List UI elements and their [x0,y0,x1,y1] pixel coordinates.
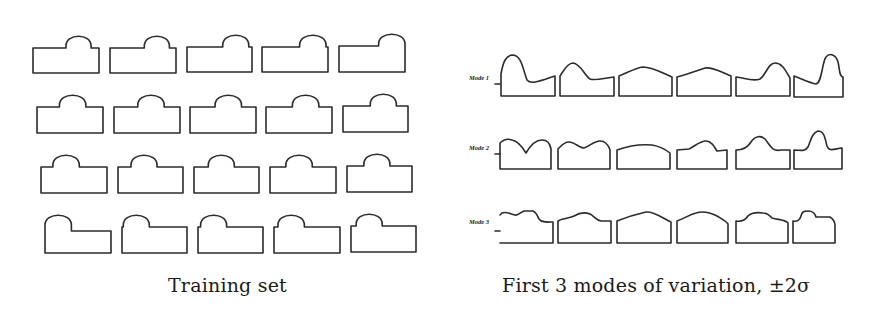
mode-shape [500,211,553,243]
mode-shape [500,139,551,169]
training-shape [41,155,107,193]
mode-shape [736,63,790,96]
training-shape [343,94,408,132]
training-shape [262,35,328,72]
mode-1-label: Mode 1 [469,74,489,81]
shape-canvas [0,0,885,314]
mode-shape [677,68,731,96]
training-shape [114,95,180,133]
training-shape [270,155,336,193]
training-shape [33,36,99,73]
modes-caption: First 3 modes of variation, ±2σ [502,274,810,296]
mode-shape [677,141,727,169]
mode-shape [736,213,788,243]
training-shape [339,34,405,72]
training-shape [274,215,340,253]
training-shape [45,215,111,253]
training-shape [266,95,332,133]
mode-shape [617,212,671,243]
mode-shape [558,141,610,169]
training-shape [187,35,252,72]
mode-shape [736,137,790,169]
figure: Training set First 3 modes of variation,… [0,0,885,314]
mode-shape [560,63,614,96]
training-shape [347,154,412,192]
mode-shape [619,67,672,96]
training-shape [122,215,187,253]
training-shape [198,215,263,253]
training-shape [194,155,259,193]
mode-3-label: Mode 3 [469,218,489,225]
training-shape [110,36,176,73]
mode-shape [558,213,611,243]
mode-shape [793,211,835,243]
training-set-caption: Training set [168,274,287,296]
mode-shape [794,131,842,169]
mode-shape [501,55,555,96]
training-shape [190,95,256,133]
mode-shape [617,145,670,169]
training-shape [351,214,416,252]
mode-2-label: Mode 2 [469,144,489,151]
modes-of-variation-shapes [500,55,843,243]
training-shape [118,155,183,193]
mode-shape [677,212,728,243]
training-set-shapes [33,34,416,253]
mode-shape [794,55,843,97]
training-shape [37,95,103,133]
